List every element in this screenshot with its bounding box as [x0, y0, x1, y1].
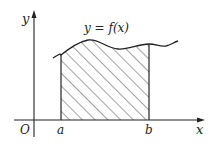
curve-label: y = f(x) — [84, 22, 129, 34]
bound-label-b: b — [145, 124, 153, 136]
y-axis-label: y — [22, 12, 29, 25]
origin-label: O — [20, 124, 30, 136]
x-axis-label: x — [196, 123, 203, 136]
integral-area-diagram: y y = f(x) O a b x — [0, 0, 217, 149]
y-axis-arrow-icon — [32, 10, 37, 18]
bound-label-a: a — [57, 124, 64, 136]
